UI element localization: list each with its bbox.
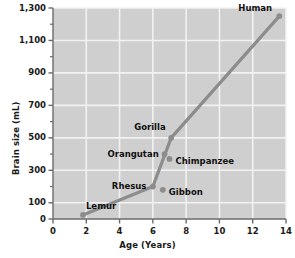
x-axis-tick-label: 10 — [207, 226, 231, 236]
data-point-marker — [167, 156, 173, 162]
x-axis-tick-label: 12 — [241, 226, 265, 236]
data-point-label: Gorilla — [134, 122, 166, 132]
x-axis-tick-label: 8 — [174, 226, 198, 236]
x-axis-tick-label: 6 — [141, 226, 165, 236]
x-axis-tick-label: 2 — [74, 226, 98, 236]
data-point-marker — [276, 13, 282, 19]
x-axis-tick-label: 14 — [274, 226, 295, 236]
data-point-marker — [150, 184, 156, 190]
y-axis-tick-label: 300 — [6, 165, 46, 175]
y-axis-tick-label: 900 — [6, 67, 46, 77]
data-point-label: Orangutan — [108, 149, 159, 159]
y-axis-tick-label: 500 — [6, 132, 46, 142]
brain-size-vs-age-chart: Brain size (mL) Age (Years) 010030050070… — [0, 0, 295, 258]
y-axis-tick-label: 0 — [6, 214, 46, 224]
x-axis-tick-label: 0 — [41, 226, 65, 236]
data-point-marker — [168, 135, 174, 141]
y-axis-tick-label: 1,100 — [6, 35, 46, 45]
x-axis-title: Age (Years) — [0, 240, 295, 250]
data-point-label: Lemur — [86, 201, 116, 211]
data-point-label: Human — [238, 3, 272, 13]
data-point-marker — [80, 212, 86, 218]
y-axis-tick-label: 700 — [6, 100, 46, 110]
data-point-marker — [160, 187, 166, 193]
data-point-label: Rhesus — [112, 181, 147, 191]
data-point-label: Gibbon — [169, 187, 203, 197]
data-point-label: Chimpanzee — [176, 156, 234, 166]
x-axis-tick-label: 4 — [108, 226, 132, 236]
y-axis-tick-label: 1,300 — [6, 3, 46, 13]
data-point-marker — [162, 151, 168, 157]
y-axis-tick-label: 100 — [6, 197, 46, 207]
